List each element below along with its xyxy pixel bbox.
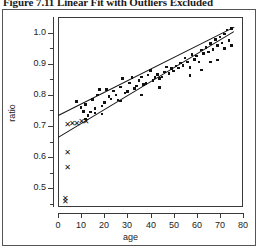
data-point: [135, 85, 138, 88]
figure-page: Figure 7.11 Linear Fit with Outliers Exc…: [0, 0, 261, 249]
data-point: [165, 66, 168, 69]
data-point: [98, 88, 101, 91]
x-tick-label-20: 20: [94, 220, 114, 230]
regression-line: [58, 31, 234, 138]
y-tick-0.6: [48, 157, 53, 158]
data-point: [209, 61, 212, 64]
x-tick-10: [81, 213, 82, 218]
data-point: [121, 77, 124, 80]
x-tick-30: [127, 213, 128, 218]
data-point: [140, 94, 143, 97]
data-point: [177, 67, 180, 70]
x-tick-80: [243, 213, 244, 218]
y-tick-0.9: [48, 64, 53, 65]
figure-caption: Figure 7.11 Linear Fit with Outliers Exc…: [0, 0, 261, 9]
x-axis-title: age: [0, 232, 261, 242]
data-point: [128, 82, 131, 85]
outlier-point: ✕: [64, 149, 71, 157]
data-point: [110, 98, 113, 101]
data-point: [119, 86, 122, 89]
y-tick-label-text: 0.9: [18, 59, 46, 68]
outlier-point: ✕: [64, 164, 71, 172]
data-point: [230, 44, 233, 47]
y-minor-tick: [50, 173, 53, 174]
data-point: [216, 59, 219, 62]
data-point: [172, 70, 175, 73]
data-point: [186, 61, 189, 64]
data-point: [168, 72, 171, 75]
data-point: [193, 58, 196, 61]
data-point: [126, 90, 129, 93]
data-point: [115, 94, 118, 97]
plot-data-marks: ✕✕✕✕✕✕✕✕✕: [58, 17, 243, 207]
x-tick-label-10: 10: [71, 220, 91, 230]
data-point: [216, 44, 219, 47]
y-tick-label-text: 0.6: [18, 152, 46, 161]
y-tick-label-text: 0.5: [18, 183, 46, 192]
y-tick-label-text: 0.8: [18, 90, 46, 99]
x-tick-label-70: 70: [210, 220, 230, 230]
x-tick-label-60: 60: [187, 220, 207, 230]
outlier-point: ✕: [62, 198, 69, 206]
data-point: [89, 111, 92, 114]
data-point: [189, 74, 192, 77]
data-point: [75, 100, 78, 103]
data-point: [202, 52, 205, 55]
y-tick-1.0: [48, 33, 53, 34]
x-tick-20: [104, 213, 105, 218]
y-minor-tick: [50, 79, 53, 80]
y-axis-line: [53, 17, 54, 207]
x-tick-0: [58, 213, 59, 218]
data-point: [140, 76, 143, 79]
x-tick-50: [174, 213, 175, 218]
y-minor-tick: [50, 48, 53, 49]
data-point: [158, 86, 161, 89]
y-tick-0.8: [48, 95, 53, 96]
data-point: [80, 106, 83, 109]
y-tick-0.7: [48, 126, 53, 127]
data-point: [223, 47, 226, 50]
x-tick-60: [197, 213, 198, 218]
y-minor-tick: [50, 204, 53, 205]
regression-line: [58, 27, 234, 116]
data-point: [101, 105, 104, 108]
data-point: [82, 110, 85, 113]
data-point: [101, 113, 104, 116]
data-point: [147, 74, 150, 77]
data-point: [212, 48, 215, 51]
data-point: [198, 61, 201, 64]
data-point: [207, 51, 210, 54]
y-tick-label-text: 1.0: [18, 28, 46, 37]
y-tick-0.5: [48, 188, 53, 189]
data-point: [138, 79, 141, 82]
data-point: [94, 107, 97, 110]
x-tick-40: [151, 213, 152, 218]
x-tick-label-40: 40: [141, 220, 161, 230]
y-axis-title: ratio: [7, 93, 17, 133]
y-minor-tick: [50, 110, 53, 111]
data-point: [103, 101, 106, 104]
data-point: [182, 64, 185, 67]
data-point: [228, 39, 231, 42]
x-tick-label-30: 30: [117, 220, 137, 230]
x-tick-label-0: 0: [48, 220, 68, 230]
y-minor-tick: [50, 142, 53, 143]
x-tick-label-50: 50: [164, 220, 184, 230]
data-point: [84, 103, 87, 106]
data-point: [189, 66, 192, 69]
data-point: [112, 90, 115, 93]
y-tick-label-text: 0.7: [18, 121, 46, 130]
data-point: [200, 69, 203, 72]
data-point: [221, 42, 224, 45]
figure-caption-text: Figure 7.11 Linear Fit with Outliers Exc…: [3, 0, 213, 8]
x-tick-label-80: 80: [233, 220, 253, 230]
x-tick-70: [220, 213, 221, 218]
